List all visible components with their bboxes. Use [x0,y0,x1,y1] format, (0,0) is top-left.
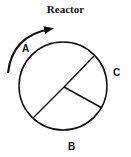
sector-label-a: A [22,43,29,54]
reactor-diagram: A C B [0,0,131,157]
sector-divider-a-c [64,56,94,87]
sector-label-c: C [113,67,120,78]
sector-label-b: B [68,141,75,152]
reactor-vessel [19,42,107,130]
sector-divider-b-c [64,87,102,108]
sector-divider-a-b [33,87,64,118]
